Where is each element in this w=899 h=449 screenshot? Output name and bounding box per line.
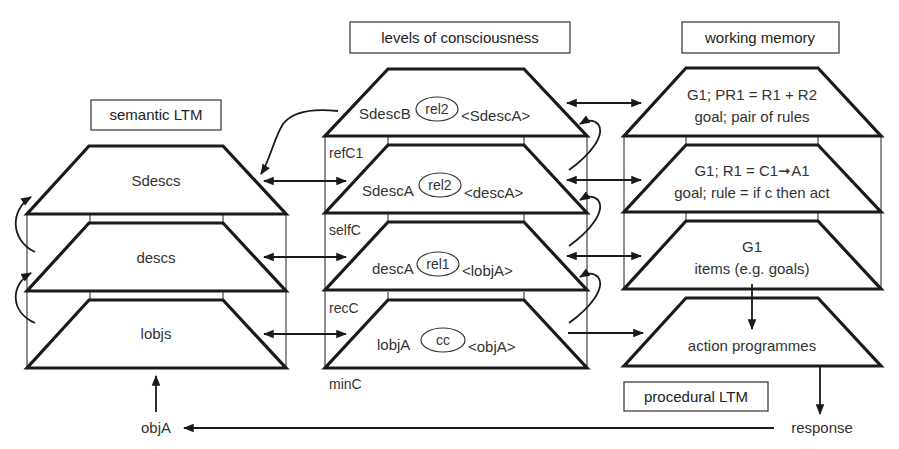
header-semantic-ltm: semantic LTM [91, 100, 221, 130]
layer-2-right-term: <descA> [464, 184, 523, 201]
output-label-response: response [791, 419, 853, 436]
layer-3-right-term: <lobjA> [462, 262, 513, 279]
header-working-memory-label: working memory [704, 29, 816, 46]
level-label-recc: recC [329, 300, 359, 316]
working-memory-stack: G1; PR1 = R1 + R2 goal; pair of rules G1… [624, 68, 881, 290]
layer-1-right-term: <SdescA> [461, 107, 530, 124]
layer-2-left-term: SdescA [362, 182, 414, 199]
header-levels-of-consciousness: levels of consciousness [350, 22, 570, 53]
semantic-layer-descs: descs [27, 223, 286, 291]
level-label-refc1: refC1 [329, 145, 363, 161]
curved-arrow-lobjs-to-descs [16, 273, 35, 323]
level-label-selfc: selfC [329, 222, 361, 238]
wm-layer-rule: G1; R1 = C1➞A1 goal; rule = if c then ac… [624, 145, 881, 212]
wm-layer-2-line1: G1; R1 = C1➞A1 [694, 162, 809, 179]
curved-arrow-refc1-to-sdescs [261, 110, 338, 174]
procedural-layer-label: action programmes [688, 337, 816, 354]
wm-layer-3-line2: items (e.g. goals) [694, 260, 809, 277]
header-procedural-ltm: procedural LTM [624, 382, 768, 411]
wm-layer-items: G1 items (e.g. goals) [624, 221, 881, 289]
semantic-layer-sdescs-label: Sdescs [131, 172, 180, 189]
semantic-ltm-stack: Sdescs descs lobjs [16, 146, 286, 368]
layer-1-left-term: SdescB [359, 105, 411, 122]
wm-layer-1-line2: goal; pair of rules [694, 108, 809, 125]
layer-3-left-term: descA [372, 260, 414, 277]
layer-2-relation: rel2 [428, 177, 452, 193]
consciousness-architecture-diagram: semantic LTM levels of consciousness wor… [0, 0, 899, 449]
layer-4-left-term: lobjA [377, 336, 410, 353]
consciousness-layer-selfc: SdescA rel2 <descA> [325, 145, 587, 213]
consciousness-layer-recc: descA rel1 <lobjA> [325, 222, 587, 290]
consciousness-layer-minc: lobjA cc <objA> [325, 300, 587, 368]
header-working-memory: working memory [682, 22, 839, 53]
wm-layer-2-line2: goal; rule = if c then act [674, 184, 830, 201]
layer-4-right-term: <objA> [468, 338, 516, 355]
semantic-layer-lobjs-label: lobjs [141, 325, 172, 342]
consciousness-stack: SdescB rel2 <SdescA> SdescA rel2 <descA>… [325, 69, 600, 392]
input-label-obja: objA [141, 419, 171, 436]
semantic-layer-sdescs: Sdescs [27, 146, 286, 214]
wm-layer-3-line1: G1 [742, 238, 762, 255]
header-semantic-ltm-label: semantic LTM [109, 106, 202, 123]
layer-3-relation: rel1 [426, 256, 450, 272]
semantic-layer-lobjs: lobjs [27, 300, 286, 368]
wm-layer-1-line1: G1; PR1 = R1 + R2 [687, 86, 817, 103]
header-procedural-ltm-label: procedural LTM [644, 388, 748, 405]
layer-1-relation: rel2 [425, 101, 449, 117]
layer-4-relation: cc [436, 332, 450, 348]
level-label-minc: minC [329, 376, 362, 392]
curved-arrow-descs-to-sdescs [16, 197, 35, 252]
consciousness-layer-refc1: SdescB rel2 <SdescA> [325, 69, 587, 136]
header-levels-label: levels of consciousness [381, 29, 539, 46]
wm-layer-pair-of-rules: G1; PR1 = R1 + R2 goal; pair of rules [624, 68, 881, 136]
semantic-layer-descs-label: descs [136, 249, 175, 266]
